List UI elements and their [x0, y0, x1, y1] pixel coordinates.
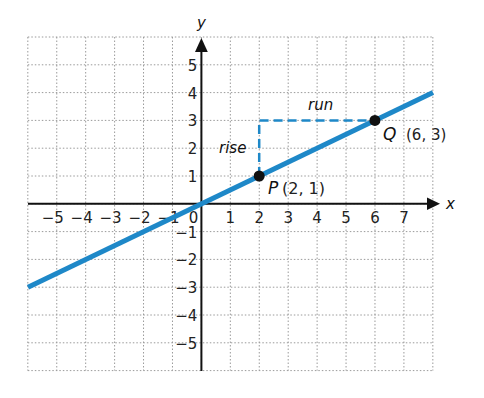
x-axis-label: x: [445, 195, 455, 213]
point-q: [369, 115, 380, 126]
y-tick-label: −2: [175, 251, 197, 269]
x-tick-label: −4: [71, 209, 93, 227]
x-tick-label: 3: [283, 209, 293, 227]
y-tick-label: 1: [188, 168, 198, 186]
x-tick-label: −3: [100, 209, 122, 227]
x-tick-label: −2: [128, 209, 150, 227]
y-tick-label: 2: [188, 140, 198, 158]
x-tick-label: 2: [254, 209, 264, 227]
y-tick-label: −1: [175, 224, 197, 242]
coordinate-plane: x y −5−4−3−2−10123456754321−1−2−3−4−5 ri…: [0, 0, 484, 398]
x-tick-label: 7: [399, 209, 409, 227]
y-tick-label: 5: [188, 57, 198, 75]
point-p: [254, 171, 265, 182]
y-tick-label: 4: [188, 85, 198, 103]
point-q-coords: (6, 3): [406, 126, 446, 144]
x-tick-label: −5: [42, 209, 64, 227]
point-q-letter: Q: [383, 124, 396, 144]
rise-label: rise: [219, 139, 246, 157]
x-tick-label: 1: [226, 209, 236, 227]
y-tick-label: 3: [188, 112, 198, 130]
run-label: run: [308, 96, 333, 114]
y-axis-label: y: [196, 14, 207, 32]
y-axis-arrow-icon: [195, 38, 208, 52]
point-p-letter: P: [268, 178, 279, 198]
x-tick-label: 5: [341, 209, 351, 227]
x-axis-arrow-icon: [427, 198, 440, 211]
x-tick-label: 4: [312, 209, 322, 227]
y-tick-label: −3: [175, 279, 197, 297]
point-p-coords: (2, 1): [282, 179, 325, 198]
x-tick-label: 6: [370, 209, 380, 227]
y-tick-label: −5: [175, 335, 197, 353]
y-tick-label: −4: [175, 307, 197, 325]
